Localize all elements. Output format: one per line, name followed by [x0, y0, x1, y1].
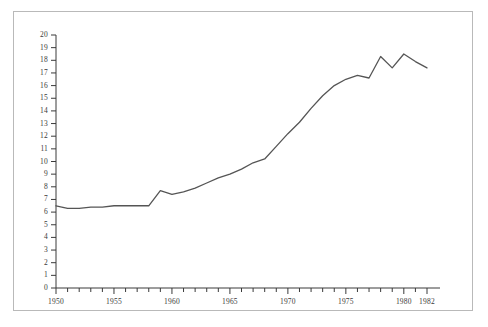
y-tick-label: 10 [28, 157, 48, 166]
y-tick-label: 19 [28, 43, 48, 52]
x-axis-ticks [56, 288, 427, 294]
y-tick-label: 3 [28, 245, 48, 254]
x-tick-label: 1982 [411, 297, 443, 306]
y-tick-label: 6 [28, 207, 48, 216]
y-tick-label: 17 [28, 68, 48, 77]
y-tick-label: 18 [28, 55, 48, 64]
y-tick-label: 12 [28, 131, 48, 140]
x-tick-label: 1975 [330, 297, 362, 306]
y-tick-label: 20 [28, 30, 48, 39]
data-line-series-1 [56, 54, 427, 208]
y-tick-label: 0 [28, 283, 48, 292]
y-tick-label: 11 [28, 144, 48, 153]
y-tick-label: 8 [28, 182, 48, 191]
y-tick-label: 16 [28, 81, 48, 90]
x-tick-label: 1955 [98, 297, 130, 306]
line-chart-svg [0, 0, 488, 327]
x-tick-label: 1950 [40, 297, 72, 306]
y-tick-label: 1 [28, 270, 48, 279]
y-tick-label: 4 [28, 232, 48, 241]
y-tick-label: 9 [28, 169, 48, 178]
y-tick-label: 14 [28, 106, 48, 115]
y-axis-ticks [51, 35, 56, 288]
x-tick-label: 1965 [214, 297, 246, 306]
x-tick-label: 1970 [272, 297, 304, 306]
y-tick-label: 15 [28, 93, 48, 102]
x-tick-label: 1960 [156, 297, 188, 306]
y-tick-label: 13 [28, 119, 48, 128]
y-tick-label: 7 [28, 194, 48, 203]
y-tick-label: 2 [28, 258, 48, 267]
figure: 01234567891011121314151617181920 1950195… [0, 0, 488, 327]
plot-area: 01234567891011121314151617181920 1950195… [0, 0, 488, 327]
y-tick-label: 5 [28, 220, 48, 229]
